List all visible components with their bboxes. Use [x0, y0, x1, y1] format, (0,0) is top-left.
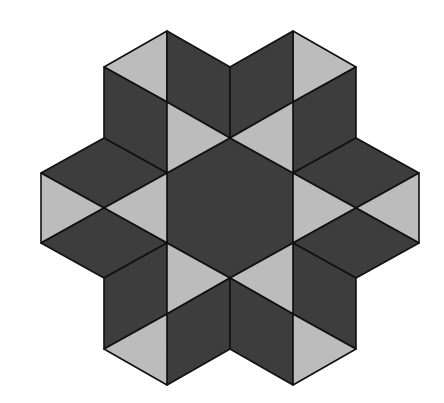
star-tessellation-figure: [0, 0, 444, 403]
tessellation-shapes: [41, 31, 419, 385]
